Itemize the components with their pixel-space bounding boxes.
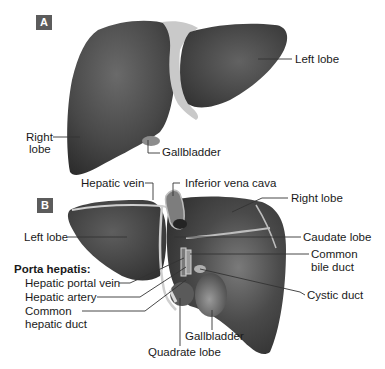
panel-a-badge: A	[36, 15, 52, 30]
liver-visceral-view	[68, 190, 286, 354]
label-quadrate-lobe: Quadrate lobe	[148, 346, 221, 359]
gallbladder-shape-a	[142, 136, 160, 146]
label-right-lobe-b: Right lobe	[291, 192, 343, 205]
left-lobe-shape-a	[180, 24, 287, 108]
label-caudate-lobe: Caudate lobe	[303, 231, 371, 244]
label-gallbladder-b: Gallbladder	[185, 330, 244, 343]
right-lobe-shape-a	[67, 21, 177, 175]
label-porta-hepatis-heading: Porta hepatis:	[14, 263, 91, 276]
gallbladder-shape-b	[195, 273, 227, 317]
label-inferior-vena-cava: Inferior vena cava	[185, 177, 276, 190]
label-left-lobe-b: Left lobe	[24, 231, 68, 244]
label-common-bile-duct-line1: Common	[311, 248, 358, 261]
label-cystic-duct: Cystic duct	[307, 289, 363, 302]
label-hepatic-portal-vein: Hepatic portal vein	[25, 277, 120, 290]
label-common-hepatic-duct-line1: Common	[25, 305, 72, 318]
label-right-lobe-a-line2: lobe	[29, 143, 51, 156]
label-common-hepatic-duct-line2: hepatic duct	[25, 318, 87, 331]
label-hepatic-vein: Hepatic vein	[81, 177, 144, 190]
label-gallbladder-a: Gallbladder	[162, 146, 221, 159]
label-left-lobe-a: Left lobe	[295, 53, 339, 66]
label-common-bile-duct-line2: bile duct	[311, 261, 354, 274]
panel-b-badge: B	[37, 198, 53, 213]
label-hepatic-artery: Hepatic artery	[25, 291, 97, 304]
